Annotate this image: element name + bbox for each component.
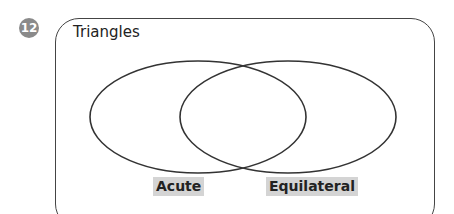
venn-ellipses bbox=[0, 0, 454, 214]
acute-label: Acute bbox=[153, 177, 204, 196]
equilateral-label: Equilateral bbox=[266, 177, 358, 196]
acute-ellipse bbox=[90, 61, 306, 173]
equilateral-ellipse bbox=[180, 61, 396, 173]
